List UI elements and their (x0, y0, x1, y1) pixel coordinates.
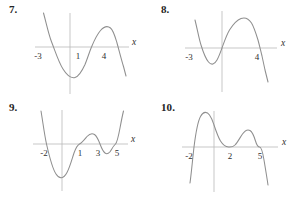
problem-9: 9. -2 1 3 5 x (0, 98, 152, 197)
polynomial-curve-10 (190, 112, 268, 185)
problem-10: 10. -2 2 5 x (152, 98, 304, 197)
graph-9: -2 1 3 5 x (0, 98, 152, 197)
tick-label-10-2: 5 (258, 151, 263, 161)
x-axis-label-9: x (130, 134, 136, 144)
tick-label-9-1: 1 (78, 148, 83, 158)
tick-label-10-1: 2 (228, 151, 233, 161)
polynomial-curve-8 (195, 18, 268, 82)
problem-7: 7. -3 1 4 x (0, 0, 152, 99)
problem-8: 8. -3 4 x (152, 0, 304, 99)
tick-label-8-1: 4 (255, 52, 260, 62)
graph-8: -3 4 x (152, 0, 304, 99)
tick-label-9-0: -2 (40, 148, 48, 158)
worksheet-page: 7. -3 1 4 x 8. -3 4 x (0, 0, 304, 197)
tick-label-9-2: 3 (96, 148, 101, 158)
tick-label-7-1: 1 (76, 51, 81, 61)
graph-10: -2 2 5 x (152, 98, 304, 197)
polynomial-curve-7 (44, 13, 127, 78)
x-axis-label-8: x (280, 38, 286, 48)
x-axis-label-7: x (131, 37, 137, 47)
x-axis-label-10: x (281, 137, 287, 147)
tick-label-9-3: 5 (115, 148, 120, 158)
tick-label-8-0: -3 (185, 52, 193, 62)
tick-label-7-0: -3 (34, 51, 42, 61)
tick-label-7-2: 4 (102, 51, 107, 61)
tick-label-10-0: -2 (185, 151, 193, 161)
graph-7: -3 1 4 x (0, 0, 152, 99)
